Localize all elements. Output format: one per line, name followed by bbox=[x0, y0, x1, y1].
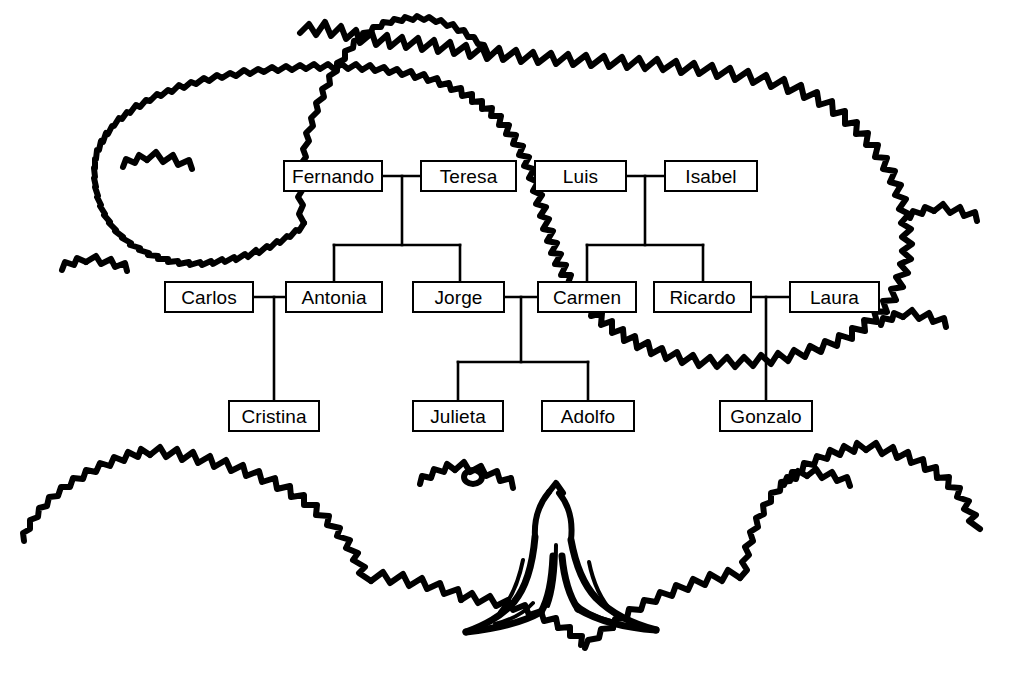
person-box-julieta[interactable]: Julieta bbox=[412, 400, 504, 432]
person-name-fernando: Fernando bbox=[292, 167, 374, 186]
person-name-isabel: Isabel bbox=[685, 167, 736, 186]
person-name-gonzalo: Gonzalo bbox=[730, 407, 801, 426]
person-box-fernando[interactable]: Fernando bbox=[283, 160, 383, 192]
person-box-gonzalo[interactable]: Gonzalo bbox=[719, 400, 813, 432]
person-box-ricardo[interactable]: Ricardo bbox=[653, 281, 752, 313]
person-name-teresa: Teresa bbox=[440, 167, 498, 186]
person-box-teresa[interactable]: Teresa bbox=[420, 160, 517, 192]
family-tree-illustration: Fernando Teresa Luis Isabel Carlos Anton… bbox=[0, 0, 1017, 681]
person-box-antonia[interactable]: Antonia bbox=[285, 281, 383, 313]
person-box-cristina[interactable]: Cristina bbox=[228, 400, 320, 432]
person-name-adolfo: Adolfo bbox=[561, 407, 615, 426]
person-name-luis: Luis bbox=[563, 167, 598, 186]
person-box-isabel[interactable]: Isabel bbox=[664, 160, 758, 192]
person-box-carmen[interactable]: Carmen bbox=[537, 281, 637, 313]
person-box-carlos[interactable]: Carlos bbox=[164, 281, 254, 313]
person-box-laura[interactable]: Laura bbox=[789, 281, 880, 313]
family-tree-connectors bbox=[0, 0, 1017, 681]
person-name-laura: Laura bbox=[810, 288, 859, 307]
person-name-carlos: Carlos bbox=[181, 288, 237, 307]
person-box-jorge[interactable]: Jorge bbox=[412, 281, 505, 313]
person-name-antonia: Antonia bbox=[301, 288, 366, 307]
person-name-julieta: Julieta bbox=[430, 407, 486, 426]
person-name-jorge: Jorge bbox=[434, 288, 482, 307]
person-box-luis[interactable]: Luis bbox=[534, 160, 627, 192]
person-box-adolfo[interactable]: Adolfo bbox=[541, 400, 635, 432]
person-name-ricardo: Ricardo bbox=[669, 288, 735, 307]
person-name-cristina: Cristina bbox=[241, 407, 306, 426]
person-name-carmen: Carmen bbox=[553, 288, 621, 307]
